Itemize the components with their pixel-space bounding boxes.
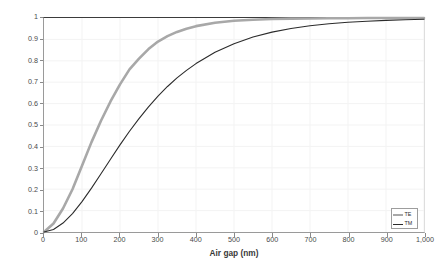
x-tick-mark [349,233,350,237]
series-line-te [44,18,424,232]
chart-legend: TE TM [391,208,418,229]
x-tick-mark [158,233,159,237]
x-tick-mark [387,233,388,237]
x-tick-label: 700 [304,236,316,243]
x-tick-label: 800 [343,236,355,243]
legend-label-te: TE [405,212,412,217]
chart-figure: Reflection coefficient R 00.10.20.30.40.… [0,0,446,271]
legend-swatch-tm [393,224,403,225]
x-tick-label: 600 [266,236,278,243]
x-tick-mark [310,233,311,237]
x-tick-label: 500 [228,236,240,243]
x-tick-label: 1,000 [416,236,434,243]
y-tick-label: 0.5 [28,121,38,128]
data-curves [44,18,424,232]
x-tick-label: 200 [113,236,125,243]
series-line-tm [44,19,424,232]
y-tick-label: 0.9 [28,35,38,42]
x-tick-mark [196,233,197,237]
y-tick-label: 0.6 [28,100,38,107]
y-tick-label: 0 [34,229,38,236]
y-tick-label: 0.3 [28,165,38,172]
y-tick-label: 0.8 [28,57,38,64]
y-tick-label: 0.7 [28,78,38,85]
legend-label-tm: TM [405,221,413,226]
plot-area [43,17,425,233]
y-tick-label: 0.1 [28,208,38,215]
y-tick-label: 0.2 [28,186,38,193]
x-tick-mark [119,233,120,237]
x-tick-mark [234,233,235,237]
legend-item-te: TE [393,211,417,219]
x-tick-label: 400 [190,236,202,243]
x-tick-label: 100 [75,236,87,243]
x-tick-mark [272,233,273,237]
legend-swatch-te [393,214,403,216]
x-tick-label: 0 [41,236,45,243]
x-tick-label: 300 [152,236,164,243]
x-axis-title: Air gap (nm) [43,248,425,258]
y-tick-label: 1 [34,13,38,20]
x-tick-mark [81,233,82,237]
x-tick-mark [425,233,426,237]
x-tick-mark [43,233,44,237]
x-tick-label: 900 [381,236,393,243]
legend-item-tm: TM [393,220,417,228]
y-tick-label: 0.4 [28,143,38,150]
